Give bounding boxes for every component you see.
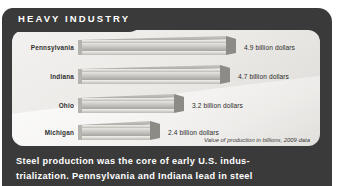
caption-band: Steel production was the core of early U… [2, 150, 332, 186]
caption-line-2: trialization. Pennsylvania and Indiana l… [16, 169, 320, 184]
heavy-industry-infographic: HEAVY INDUSTRY Pennsylvania [0, 0, 346, 186]
source-note: Value of production in billions, 2009 da… [204, 137, 310, 143]
chart-panel: Pennsylvania [12, 30, 320, 146]
table-row: Indiana 4.7 billion dollars [12, 65, 320, 91]
bar-category-label: Ohio [12, 102, 74, 109]
bar-category-label: Pennsylvania [12, 44, 74, 51]
bar-value-label: 4.7 billion dollars [238, 73, 289, 80]
caption-line-1: Steel production was the core of early U… [16, 154, 320, 169]
bar-value-label: 2.4 billion dollars [168, 129, 219, 136]
bar-value-label: 3.2 billion dollars [192, 102, 243, 109]
bar-rows: Pennsylvania [12, 30, 320, 146]
table-row: Ohio 3.2 billion dollars [12, 94, 320, 120]
table-row: Pennsylvania [12, 36, 320, 62]
bar-beam [78, 36, 236, 58]
bar-category-label: Indiana [12, 73, 74, 80]
bar-beam [78, 65, 230, 87]
bar-value-label: 4.9 billion dollars [244, 44, 295, 51]
bar-category-label: Michigan [12, 129, 74, 136]
page-title: HEAVY INDUSTRY [18, 13, 130, 24]
bar-beam [78, 94, 184, 116]
decorative-top-illustration [150, 0, 212, 6]
bar-beam [78, 121, 160, 143]
